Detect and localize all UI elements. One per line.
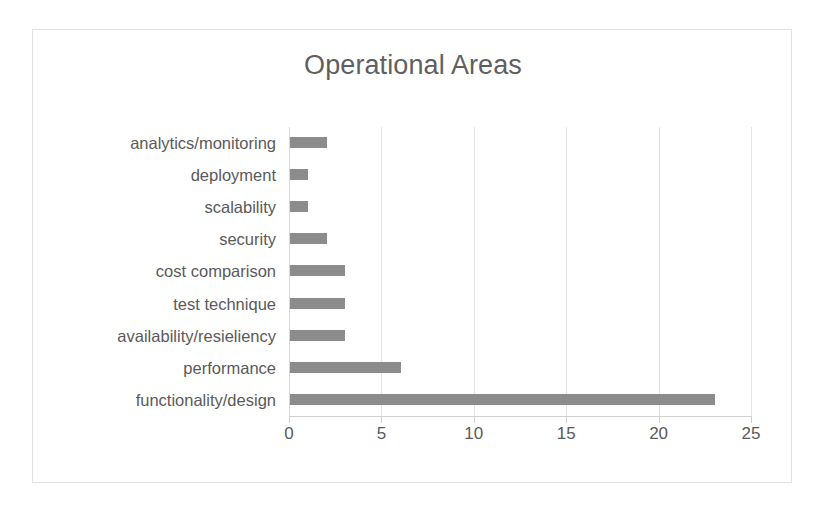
gridline-x-25 [751,127,752,416]
bar-row [289,288,751,320]
x-tick-mark-25 [751,417,752,423]
x-tick-mark-15 [566,417,567,423]
bar-availability-resieliency[interactable] [290,330,345,341]
x-tick-label-25: 25 [721,424,781,444]
bar-row [289,384,751,416]
category-label-availability-resieliency: availability/resieliency [33,320,276,352]
x-tick-mark-0 [289,417,290,423]
bar-security[interactable] [290,233,327,244]
category-label-scalability: scalability [33,191,276,223]
chart-frame: Operational Areas analytics/monitoringde… [32,29,792,483]
x-tick-label-10: 10 [444,424,504,444]
y-axis-category-labels: analytics/monitoringdeploymentscalabilit… [33,127,276,416]
bar-row [289,255,751,287]
category-label-test-technique: test technique [33,288,276,320]
bar-row [289,127,751,159]
bar-row [289,320,751,352]
category-label-performance: performance [33,352,276,384]
bar-row [289,159,751,191]
category-label-analytics-monitoring: analytics/monitoring [33,127,276,159]
bar-cost-comparison[interactable] [290,265,345,276]
plot-area [289,127,751,416]
bar-scalability[interactable] [290,201,308,212]
x-tick-mark-20 [659,417,660,423]
x-tick-mark-10 [474,417,475,423]
category-label-cost-comparison: cost comparison [33,255,276,287]
x-tick-label-15: 15 [536,424,596,444]
x-axis-line [289,416,752,417]
bar-test-technique[interactable] [290,298,345,309]
x-tick-label-5: 5 [351,424,411,444]
x-tick-label-0: 0 [259,424,319,444]
bar-analytics-monitoring[interactable] [290,137,327,148]
bar-row [289,352,751,384]
x-tick-mark-5 [381,417,382,423]
bar-row [289,223,751,255]
category-label-deployment: deployment [33,159,276,191]
bar-functionality-design[interactable] [290,394,715,405]
bar-performance[interactable] [290,362,401,373]
bar-row [289,191,751,223]
chart-title: Operational Areas [33,50,793,81]
bar-deployment[interactable] [290,169,308,180]
x-tick-label-20: 20 [629,424,689,444]
category-label-security: security [33,223,276,255]
category-label-functionality-design: functionality/design [33,384,276,416]
